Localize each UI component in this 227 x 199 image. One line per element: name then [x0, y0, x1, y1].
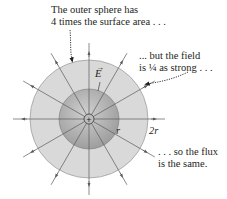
field-arrow-icon — [143, 86, 146, 88]
outer-sphere-pointer — [70, 30, 72, 60]
annotation-line: is the same. — [158, 158, 218, 170]
field-annotation: ... but the field is ¼ as strong . . . — [139, 50, 213, 74]
field-arrow-icon — [143, 150, 146, 152]
field-arrow-icon — [56, 173, 58, 176]
charge-symbol: + — [86, 115, 91, 125]
annotation-line: ... but the field — [139, 50, 213, 62]
field-arrow-icon — [120, 62, 122, 65]
outer-radius-label: 2r — [149, 125, 158, 136]
field-arrow-icon — [32, 86, 35, 88]
annotation-line: 4 times the surface area . . . — [51, 16, 166, 28]
flux-annotation: . . . so the flux is the same. — [158, 146, 218, 170]
field-arrow-icon — [32, 150, 35, 152]
annotation-line: The outer sphere has — [51, 4, 166, 16]
field-arrow-icon — [120, 173, 122, 176]
field-arrow-icon — [56, 62, 58, 65]
annotation-line: is ¼ as strong . . . — [139, 62, 213, 74]
annotation-line: . . . so the flux — [158, 146, 218, 158]
inner-radius-label: r — [116, 125, 120, 136]
field-vector-label: → E — [95, 68, 101, 79]
outer-sphere-annotation: The outer sphere has 4 times the surface… — [51, 4, 166, 28]
gauss-law-spheres-diagram: + The outer sphere has 4 times the surfa… — [0, 0, 227, 199]
vector-arrow-icon: → — [96, 63, 104, 72]
